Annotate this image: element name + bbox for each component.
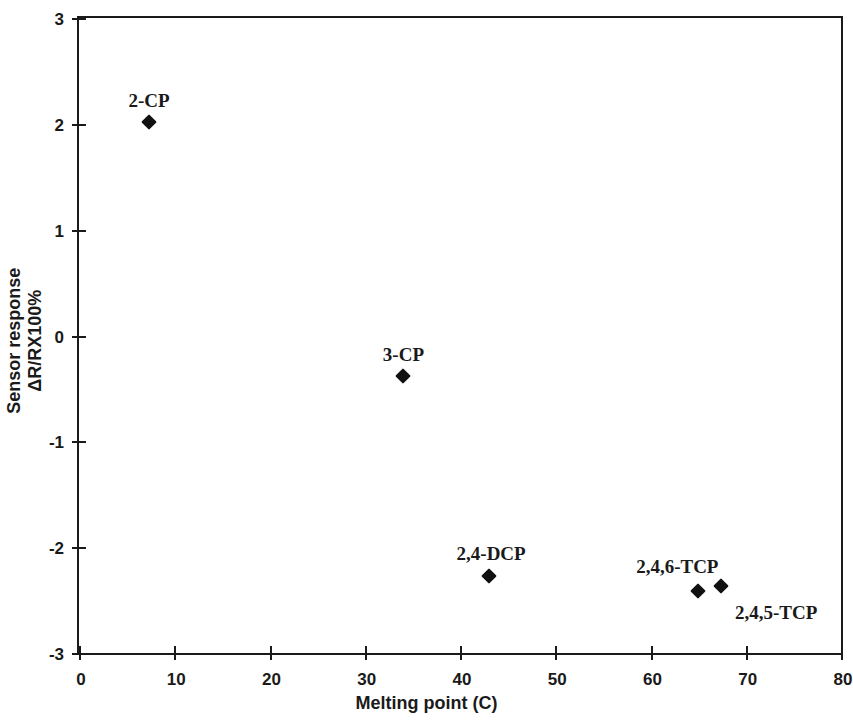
- y-axis-tick: 3: [72, 18, 86, 20]
- x-axis-tick-label: 0: [76, 670, 85, 690]
- x-axis-tick-label: 80: [834, 670, 853, 690]
- y-axis-tick-label: 3: [55, 10, 64, 30]
- y-axis-tick-label: -3: [49, 645, 64, 665]
- x-axis-tick-label: 10: [167, 670, 186, 690]
- data-point-label: 2,4-DCP: [457, 543, 526, 565]
- data-point-marker: [690, 583, 706, 599]
- x-axis-tick: 20: [270, 646, 272, 660]
- x-axis-tick: 0: [79, 646, 81, 660]
- y-axis-tick: 1: [72, 230, 86, 232]
- y-axis-tick-label: 0: [55, 328, 64, 348]
- x-axis-tick: 60: [651, 646, 653, 660]
- scatter-chart-figure: 3210-1-2-3010203040506070802-CP3-CP2,4-D…: [0, 0, 853, 727]
- data-point-label: 2-CP: [128, 90, 169, 112]
- x-axis-tick: 40: [460, 646, 462, 660]
- data-point-marker: [142, 114, 158, 130]
- y-axis-title-line2: ΔR/RX100%: [25, 121, 46, 561]
- y-axis-tick: 2: [72, 124, 86, 126]
- y-axis-tick: 0: [72, 336, 86, 338]
- y-axis-tick-label: -2: [49, 539, 64, 559]
- y-axis-title: Sensor response ΔR/RX100%: [4, 121, 45, 561]
- x-axis-tick: 30: [365, 646, 367, 660]
- data-point-label: 2,4,5-TCP: [735, 602, 817, 624]
- x-axis-tick: 10: [174, 646, 176, 660]
- x-axis-tick-label: 40: [453, 670, 472, 690]
- y-axis-tick-label: -1: [49, 433, 64, 453]
- y-axis-tick-label: 2: [55, 116, 64, 136]
- x-axis-tick: 70: [746, 646, 748, 660]
- x-axis-tick: 80: [841, 646, 843, 660]
- x-axis-tick-label: 60: [643, 670, 662, 690]
- x-axis-tick: 50: [555, 646, 557, 660]
- x-axis-tick-label: 70: [738, 670, 757, 690]
- y-axis-tick-label: 1: [55, 222, 64, 242]
- data-point-label: 3-CP: [383, 344, 424, 366]
- plot-area: 3210-1-2-3010203040506070802-CP3-CP2,4-D…: [77, 16, 843, 655]
- data-point-marker: [713, 579, 729, 595]
- data-point-marker: [481, 568, 497, 584]
- x-axis-tick-label: 30: [357, 670, 376, 690]
- x-axis-tick-label: 50: [548, 670, 567, 690]
- y-axis-title-line1: Sensor response: [4, 121, 25, 561]
- data-point-marker: [395, 368, 411, 384]
- y-axis-tick: -1: [72, 441, 86, 443]
- y-axis-tick: -2: [72, 547, 86, 549]
- data-point-label: 2,4,6-TCP: [636, 556, 718, 578]
- x-axis-tick-label: 20: [262, 670, 281, 690]
- x-axis-title: Melting point (C): [0, 693, 853, 714]
